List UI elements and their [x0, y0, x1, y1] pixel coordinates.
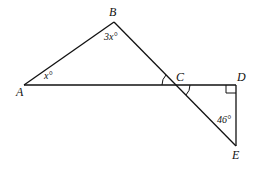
angle-label-a: x° — [43, 70, 52, 81]
label-point-e: E — [231, 148, 240, 162]
segment-ab — [24, 22, 114, 85]
right-angle-marker — [226, 85, 236, 93]
label-point-c: C — [176, 70, 185, 84]
label-point-b: B — [109, 5, 117, 19]
angle-arc-c-right — [186, 85, 190, 95]
segment-be — [114, 22, 236, 146]
angle-label-e: 46° — [217, 114, 231, 125]
geometry-diagram: A B C D E 3x° x° 46° — [0, 0, 258, 171]
label-point-a: A — [15, 85, 24, 99]
angle-label-b: 3x° — [103, 31, 117, 42]
label-point-d: D — [236, 70, 246, 84]
angle-arc-c-left — [162, 75, 166, 85]
